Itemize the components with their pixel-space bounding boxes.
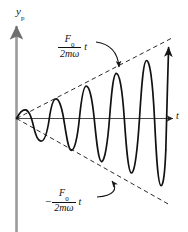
y-axis-label-subscript: p: [21, 14, 25, 22]
upper-annotation-numerator-subscript: 0: [71, 41, 75, 49]
t-axis-label: t: [176, 110, 179, 121]
lower-annotation-numerator-subscript: 0: [65, 195, 69, 203]
lower-annotation-variable: t: [76, 197, 82, 207]
resonance-figure: yp t F0 2mω t − F0 2mω t: [0, 0, 188, 232]
upper-annotation-denominator: 2mω: [58, 49, 81, 59]
resonance-curve: [17, 48, 169, 186]
y-axis-label: yp: [16, 5, 24, 20]
lower-envelope-annotation: − F0 2mω t: [45, 188, 81, 213]
lower-annotation-fraction: F0 2mω: [52, 188, 75, 213]
upper-annotation-numerator: F0: [63, 34, 77, 47]
upper-leader-arrow: [96, 42, 119, 67]
lower-annotation-denominator: 2mω: [52, 203, 75, 213]
figure-canvas: [0, 0, 188, 232]
upper-annotation-fraction: F0 2mω: [58, 34, 81, 59]
upper-envelope-annotation: F0 2mω t: [57, 33, 87, 59]
lower-annotation-numerator: F0: [57, 188, 71, 201]
upper-envelope-line: [17, 38, 173, 119]
lower-leader-arrow: [97, 181, 115, 197]
lower-annotation-sign: −: [45, 196, 52, 207]
upper-annotation-variable: t: [81, 42, 87, 52]
lower-envelope-line: [17, 119, 171, 206]
